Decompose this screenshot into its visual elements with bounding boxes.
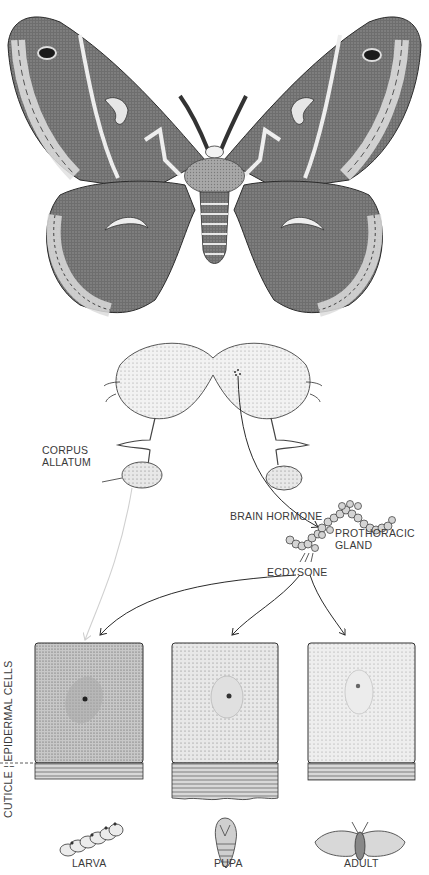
- corpus-allatum-line2: ALLATUM: [42, 456, 91, 468]
- corpus-allatum-line1: CORPUS: [42, 444, 91, 456]
- stage-label-larva: LARVA: [72, 857, 106, 869]
- adult-moth-icon: [315, 822, 405, 860]
- prothoracic-line1: PROTHORACIC: [335, 527, 415, 539]
- pupa-cell-icon: [172, 643, 278, 800]
- brain-icon: [104, 343, 322, 490]
- prothoracic-line2: GLAND: [335, 539, 415, 551]
- stage-label-pupa: PUPA: [214, 857, 243, 869]
- corpus-allatum-label: CORPUS ALLATUM: [42, 444, 91, 468]
- adult-cell-icon: [308, 643, 415, 780]
- moth-illustration: [0, 0, 429, 330]
- hormone-diagram: CORPUS ALLATUM BRAIN HORMONE PROTHORACIC…: [0, 330, 429, 875]
- ecdysone-label: ECDYSONE: [267, 566, 328, 578]
- prothoracic-gland-label: PROTHORACIC GLAND: [335, 527, 415, 551]
- cuticle-epidermal-axis-label: CUTICLE ¦ EPIDERMAL CELLS: [2, 661, 14, 818]
- moth-drawing-icon: [0, 0, 429, 330]
- larva-cell-icon: [0, 643, 143, 779]
- larva-icon: [60, 823, 123, 856]
- brain-hormone-label: BRAIN HORMONE: [230, 510, 322, 522]
- stage-label-adult: ADULT: [344, 857, 379, 869]
